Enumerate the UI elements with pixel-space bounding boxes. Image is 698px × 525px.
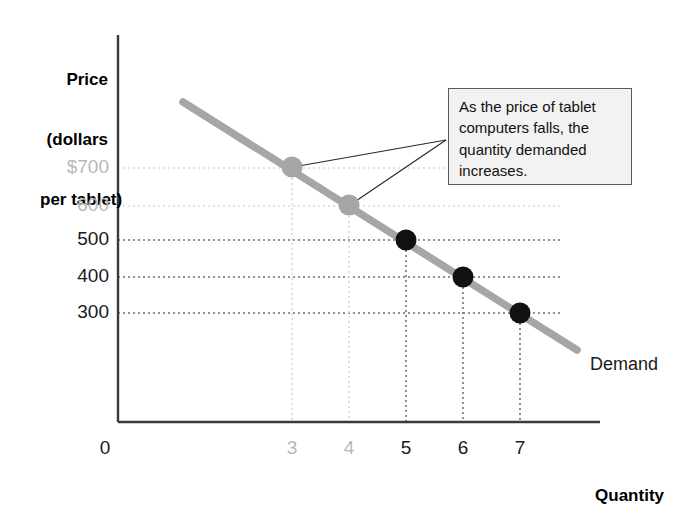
data-point-5-500 (396, 230, 417, 251)
data-point-3-700 (282, 157, 303, 178)
y-axis-title: Price (dollars per tablet) (40, 30, 108, 251)
callout-annotation: As the price of tablet computers falls, … (448, 88, 632, 185)
data-point-7-300 (510, 303, 531, 324)
data-point-6-400 (453, 267, 474, 288)
y-tick-label-400: 400 (57, 265, 109, 287)
callout-leader-lines (293, 140, 446, 205)
y-tick-label-700: $700 (57, 156, 109, 178)
x-axis-title: Quantity (millions of tablets per month) (408, 446, 664, 525)
data-point-4-600 (339, 195, 360, 216)
demand-curve-chart: Price (dollars per tablet) $700 600 500 … (0, 0, 698, 525)
x-tick-label-3: 3 (280, 437, 304, 459)
y-tick-label-500: 500 (57, 228, 109, 250)
y-tick-label-300: 300 (57, 301, 109, 323)
y-axis-title-line-1: Price (40, 70, 108, 90)
y-tick-label-600: 600 (57, 194, 109, 216)
x-axis-title-line-1: Quantity (408, 486, 664, 506)
x-tick-label-0: 0 (93, 437, 117, 459)
gridlines-horizontal (118, 240, 560, 313)
y-axis-title-line-2: (dollars (40, 130, 108, 150)
x-tick-label-4: 4 (337, 437, 361, 459)
demand-curve-label: Demand (590, 354, 658, 375)
